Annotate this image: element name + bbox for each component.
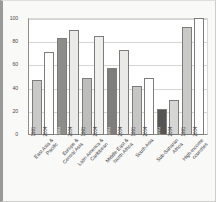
bars-layer: 1991 2004 1991 2004 1991 2004 (28, 18, 208, 135)
bar-europe-central-asia-1991[interactable]: 1991 (57, 38, 67, 135)
bar-group-east-asia-pacific: 1991 2004 (32, 18, 56, 135)
bar-group-europe-central-asia: 1991 2004 (57, 18, 81, 135)
bar-year-label: 2004 (194, 127, 199, 137)
bar-year-label: 2004 (119, 127, 124, 137)
bar-group-middle-east-north-africa: 1991 2004 (107, 18, 131, 135)
bar-year-label: 1991 (107, 127, 112, 137)
bar-year-label: 1991 (182, 127, 187, 137)
bar-chart: 100 80 60 40 20 0 1991 2004 1991 2004 (0, 0, 216, 202)
bar-year-label: 1991 (82, 127, 87, 137)
bar-group-high-income-countries: 1991 2004 (182, 18, 206, 135)
bar-latin-america-caribbean-1991[interactable]: 1991 (82, 78, 92, 135)
bar-group-latin-america-caribbean: 1991 2004 (82, 18, 106, 135)
bar-year-label: 1991 (157, 127, 162, 137)
y-tick-label-40: 40 (0, 86, 18, 91)
bar-year-label: 2004 (169, 127, 174, 137)
bar-europe-central-asia-2004[interactable]: 2004 (69, 30, 79, 135)
bar-south-asia-2004[interactable]: 2004 (144, 78, 154, 135)
bar-high-income-countries-1991[interactable]: 1991 (182, 27, 192, 135)
bar-group-sub-saharan-africa: 1991 2004 (157, 18, 181, 135)
bar-year-label: 2004 (44, 127, 49, 137)
bar-latin-america-caribbean-2004[interactable]: 2004 (94, 36, 104, 136)
y-tick-label-60: 60 (0, 62, 18, 67)
bar-group-south-asia: 1991 2004 (132, 18, 156, 135)
x-axis: East Asia & Pacific Europe & Central Asi… (28, 137, 208, 199)
bar-year-label: 1991 (132, 127, 137, 137)
bar-east-asia-pacific-2004[interactable]: 2004 (44, 52, 54, 135)
bar-middle-east-north-africa-2004[interactable]: 2004 (119, 50, 129, 135)
bar-south-asia-1991[interactable]: 1991 (132, 86, 142, 135)
bar-year-label: 2004 (94, 127, 99, 137)
y-tick-label-0: 0 (0, 132, 18, 137)
y-tick-label-100: 100 (0, 16, 18, 21)
y-tick-label-80: 80 (0, 39, 18, 44)
bar-sub-saharan-africa-2004[interactable]: 2004 (169, 100, 179, 135)
bar-high-income-countries-2004[interactable]: 2004 (194, 18, 204, 135)
bar-east-asia-pacific-1991[interactable]: 1991 (32, 80, 42, 135)
bar-middle-east-north-africa-1991[interactable]: 1991 (107, 68, 117, 135)
bar-year-label: 2004 (144, 127, 149, 137)
bar-year-label: 1991 (57, 127, 62, 137)
bar-year-label: 2004 (69, 127, 74, 137)
bar-year-label: 1991 (32, 127, 37, 137)
y-tick-label-20: 20 (0, 109, 18, 114)
bar-sub-saharan-africa-1991[interactable]: 1991 (157, 109, 167, 135)
